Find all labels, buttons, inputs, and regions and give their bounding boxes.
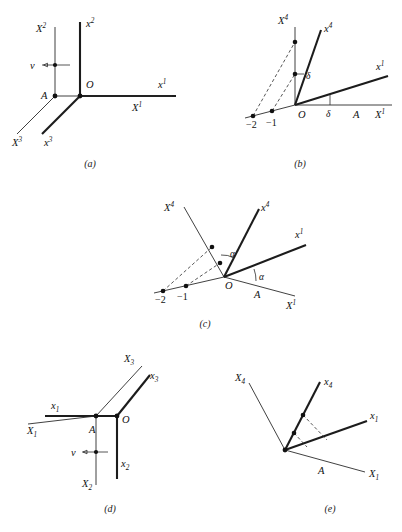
tick-label-minus-one: −1 [177,291,188,302]
point-on-X4-upper [210,245,215,250]
axis-X1-upper [28,416,96,424]
dashed-line-upper [303,415,327,440]
dashed-line-minus-two [253,42,295,116]
caption-c-wrap: (c) [175,313,235,331]
label-X4-upper: X4 [234,372,245,386]
panel-d: X3 x3 x1 X1 x2 X2 O A v [0,340,210,495]
label-x1-lower: x1 [50,400,59,414]
velocity-point [53,63,57,67]
label-x4-lower: x4 [260,201,270,213]
angle-label-lower: α [259,272,265,282]
label-origin: O [225,280,233,291]
label-x1-lower: x1 [157,78,166,90]
axis-X1-upper [285,450,365,472]
vertex-point [283,448,288,453]
label-point-A: A [88,424,96,435]
label-X4-upper: X4 [163,201,174,213]
label-point-A: A [40,90,48,101]
point-on-X4-upper [293,40,298,45]
tick-label-minus-one: −1 [266,117,277,128]
tick-label-minus-two: −2 [155,294,166,305]
label-point-A: A [253,289,261,300]
label-X1-upper: X1 [374,108,385,120]
label-X3-upper: X3 [11,136,22,148]
label-point-A: A [352,109,360,120]
angle-label-lower: δ [326,109,331,119]
caption-a: (a) [84,158,96,169]
caption-b-wrap: (b) [270,153,330,171]
panel-a: X2 x2 x1 X1 X3 x3 O A v [0,0,200,150]
label-X3-upper: X3 [123,353,134,367]
velocity-point [94,450,98,454]
label-X1-upper: X1 [285,299,296,311]
dashed-line-minus-one [186,263,220,286]
label-x2-lower: x2 [85,17,95,29]
panel-b: X4 x4 x1 X1 O A −2 −1 δ δ [190,0,402,150]
label-X4-upper: X4 [277,14,288,26]
caption-e: (e) [324,503,335,514]
tick-point-minus-two [251,114,256,119]
tick-point-minus-two [161,289,166,294]
label-X1-upper: X1 [368,468,379,482]
label-velocity: v [30,60,35,71]
origin-point [78,94,83,99]
axis-X3-upper [17,96,55,134]
point-on-X4-lower [293,72,298,77]
label-x1-lower: x1 [369,410,378,424]
label-x4-lower: x4 [323,376,333,390]
label-origin: O [298,109,306,120]
caption-b: (b) [294,158,306,169]
point-A [94,414,99,419]
axis-x4-lower [224,209,259,277]
label-origin: O [122,414,130,425]
point-on-X4-lower [218,261,223,266]
label-X2-upper: X2 [81,478,92,492]
axis-X4-upper [249,383,285,450]
axis-x3-lower [42,96,80,134]
label-x1-lower: x1 [375,60,384,72]
tick-point-minus-one [270,109,275,114]
point-on-x4-upper [301,413,306,418]
caption-d: (d) [104,503,116,514]
label-x1-lower: x1 [294,228,303,240]
axis-x1-lower [224,245,306,277]
label-x2-lower: x2 [120,458,130,472]
axis-X3-upper [96,366,142,416]
origin-point [115,414,120,419]
axis-x4-lower [295,30,321,105]
axis-x3-lower [117,375,150,416]
caption-e-wrap: (e) [300,498,360,516]
point-on-x4-lower [292,431,297,436]
label-origin: O [86,79,94,90]
tick-point-minus-one [184,284,189,289]
label-point-A: A [317,465,325,476]
caption-c: (c) [199,318,210,329]
tick-label-minus-two: −2 [246,119,257,130]
point-A [53,94,58,99]
panel-e: X4 x4 x1 X1 A [210,355,402,500]
label-x4-lower: x4 [323,22,333,34]
label-X1-upper: X1 [131,101,142,113]
label-X1-upper: X1 [26,425,37,439]
figure-root: X2 x2 x1 X1 X3 x3 O A v (a) X4 [0,0,402,532]
label-X2-upper: X2 [35,22,46,34]
caption-d-wrap: (d) [80,498,140,516]
angle-label-upper: δ [306,71,311,81]
angle-arc-lower [254,269,256,281]
label-x3-lower: x3 [43,136,53,148]
caption-a-wrap: (a) [60,153,120,171]
label-x3-lower: x3 [149,370,159,384]
panel-c: X4 x4 x1 X1 O A −2 −1 α α [120,185,330,315]
label-velocity: v [71,447,76,458]
